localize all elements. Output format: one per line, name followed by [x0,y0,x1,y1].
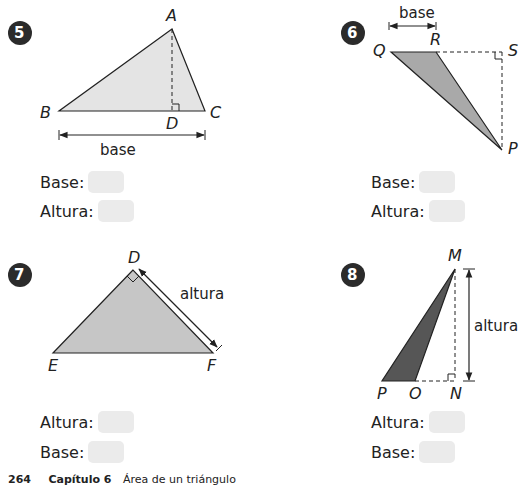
height-label: Altura: [371,413,425,432]
height-answer-box[interactable] [98,200,134,222]
problem-6-height-row: Altura: [371,200,465,222]
vertex-d-label: D [128,248,140,268]
height-annotation: altura [474,316,518,336]
problem-6-base-row: Base: [371,171,455,193]
base-answer-box[interactable] [419,441,455,463]
problem-7-base-row: Base: [40,441,124,463]
triangle-pqr [391,52,502,150]
vertex-q-label: Q [373,41,386,61]
height-label: Altura: [371,202,425,221]
page-footer: 264 Capítulo 6 Área de un triángulo [8,473,236,486]
vertex-a-label: A [166,6,177,26]
vertex-b-label: B [40,103,51,123]
base-annotation: base [100,140,136,160]
height-answer-box[interactable] [429,411,465,433]
page-number: 264 [8,473,31,486]
triangle-abc [59,29,205,111]
base-answer-box[interactable] [88,171,124,193]
base-label: Base: [40,443,84,462]
problem-8-number: 8 [347,265,357,285]
vertex-f-label: F [207,356,216,376]
base-answer-box[interactable] [88,441,124,463]
problem-8-height-row: Altura: [371,411,465,433]
height-annotation: altura [180,284,224,304]
right-angle-icon [448,374,455,381]
problem-5-height-row: Altura: [40,200,134,222]
problem-8-base-row: Base: [371,441,455,463]
base-label: Base: [371,443,415,462]
problem-6-number: 6 [347,23,357,43]
chapter-label: Capítulo 6 [48,473,111,486]
base-label: Base: [371,173,415,192]
base-label: Base: [40,173,84,192]
height-label: Altura: [40,202,94,221]
triangle-mpo [382,269,455,381]
problem-7-figure [8,263,222,353]
problem-7-height-row: Altura: [40,411,134,433]
right-angle-icon [495,52,502,59]
vertex-d-label: D [166,114,178,134]
height-label: Altura: [40,413,94,432]
problem-5-number: 5 [14,23,24,43]
problem-6-figure [341,21,502,150]
vertex-r-label: R [430,30,441,50]
height-answer-box[interactable] [429,200,465,222]
chapter-title: Área de un triángulo [123,473,236,486]
height-answer-box[interactable] [98,411,134,433]
vertex-m-label: M [448,246,462,266]
problem-5-base-row: Base: [40,171,124,193]
vertex-n-label: N [450,384,462,404]
vertex-o-label: O [409,384,422,404]
base-annotation: base [399,3,435,23]
vertex-e-label: E [48,356,58,376]
vertex-p-label: P [377,384,387,404]
base-answer-box[interactable] [419,171,455,193]
vertex-p-label: P [508,139,518,159]
problem-8-figure [341,263,475,381]
problem-7-number: 7 [14,265,24,285]
vertex-s-label: S [508,41,518,61]
vertex-c-label: C [210,103,221,123]
